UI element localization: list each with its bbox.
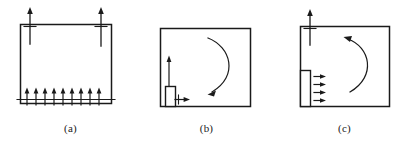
specimen-box xyxy=(301,27,390,107)
panel-c-caption: (c) xyxy=(276,122,412,134)
panel-a-caption: (a) xyxy=(2,122,139,134)
panel-c: (c) xyxy=(276,0,412,150)
indenter-block xyxy=(166,87,176,107)
figure-container: (a) xyxy=(0,0,412,150)
panel-a: (a) xyxy=(0,0,137,150)
side-block xyxy=(301,71,311,107)
panel-b-caption: (b) xyxy=(138,122,275,134)
panel-b: (b) xyxy=(138,0,275,150)
